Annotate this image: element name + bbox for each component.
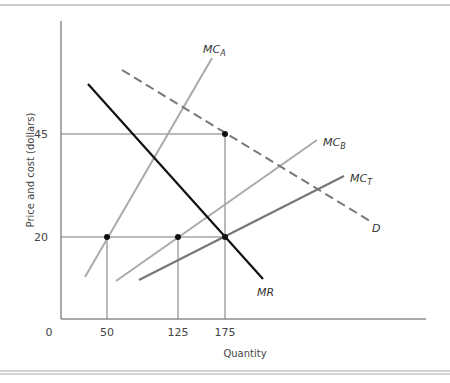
mr-curve <box>88 84 263 279</box>
x-tick-175: 175 <box>215 326 236 339</box>
mc-t-curve <box>139 176 344 280</box>
x-axis-title: Quantity <box>223 348 266 359</box>
point-mcb-mr <box>175 234 181 240</box>
y-tick-20: 20 <box>34 231 48 244</box>
x-tick-125: 125 <box>168 326 189 339</box>
y-tick-45: 45 <box>34 128 48 141</box>
demand-label: D <box>372 222 380 235</box>
chart-figure: 45 20 0 50 125 175 Quantity Price and co… <box>0 0 450 383</box>
mc-a-curve <box>85 58 212 277</box>
x-tick-50: 50 <box>100 326 114 339</box>
x-tick-0: 0 <box>46 326 53 339</box>
mc-a-label: MCA <box>203 43 226 58</box>
mc-b-label: MCB <box>323 136 346 151</box>
mr-label: MR <box>257 286 274 299</box>
point-price <box>222 131 228 137</box>
mc-t-label: MCT <box>350 172 373 187</box>
mc-b-curve <box>116 140 317 281</box>
point-mca-mr <box>104 234 110 240</box>
y-axis-title: Price and cost (dollars) <box>25 113 36 228</box>
point-mct-mr <box>222 234 228 240</box>
